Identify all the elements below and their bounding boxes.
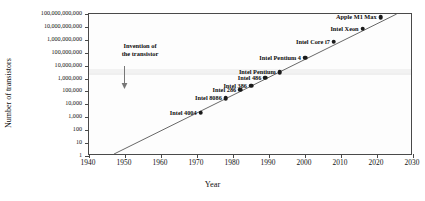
- x-tick-label: 2030: [392, 159, 425, 166]
- y-tick: [85, 104, 89, 105]
- y-tick-label: 1,000,000,000: [47, 36, 82, 42]
- y-tick: [85, 143, 89, 144]
- y-tick-label: 1,000,000: [58, 75, 82, 81]
- data-point-marker: [332, 39, 337, 44]
- y-tick: [85, 130, 89, 131]
- chart-figure: Number of transistors Year Intel 4004Int…: [0, 0, 425, 201]
- plot-area: Intel 4004Intel 8086Intel 286Intel 386In…: [88, 13, 412, 155]
- y-tick: [85, 27, 89, 28]
- x-tick-label: 1990: [248, 159, 288, 166]
- y-tick: [85, 14, 89, 15]
- annotation-arrow-down-icon: [120, 66, 129, 90]
- data-point-marker: [263, 75, 268, 80]
- y-tick-label: 10,000,000,000: [44, 23, 82, 29]
- x-tick-label: 1940: [68, 159, 108, 166]
- y-tick: [85, 91, 89, 92]
- y-tick-label: 100: [73, 126, 82, 132]
- transistor-invention-annotation: Invention of the transistor: [109, 42, 171, 58]
- x-tick-label: 1960: [140, 159, 180, 166]
- x-tick-label: 1980: [212, 159, 252, 166]
- y-tick-label: 100,000,000: [52, 49, 82, 55]
- data-point-marker: [198, 110, 203, 115]
- y-tick-label: 10,000,000: [55, 62, 82, 68]
- annotation-line-1: Invention of: [123, 42, 156, 49]
- data-point-marker: [249, 83, 254, 88]
- data-point-label: Apple M1 Max: [336, 14, 377, 20]
- y-tick-label: 100,000: [62, 87, 82, 93]
- data-point-marker: [224, 96, 229, 101]
- y-tick-label: 100,000,000,000: [41, 10, 82, 16]
- x-tick-label: 1970: [176, 159, 216, 166]
- y-tick: [85, 53, 89, 54]
- x-tick-label: 2020: [356, 159, 396, 166]
- data-point-label: Intel Pentium 4: [259, 54, 301, 60]
- data-point-label: Intel Xeon: [330, 26, 358, 32]
- y-tick: [85, 117, 89, 118]
- annotation-line-2: the transistor: [122, 50, 159, 57]
- data-point-marker: [303, 55, 308, 60]
- y-tick-label: 10,000: [65, 100, 82, 106]
- data-point-label: Intel Pentium: [239, 69, 276, 75]
- data-point-label: Intel 4004: [170, 109, 197, 115]
- y-tick: [85, 79, 89, 80]
- data-point-label: Intel 8086: [195, 95, 222, 101]
- data-point-marker: [278, 70, 283, 75]
- y-tick: [85, 66, 89, 67]
- y-tick-label: 10: [76, 139, 82, 145]
- data-point-label: Intel 386: [223, 83, 247, 89]
- y-tick: [85, 40, 89, 41]
- x-axis-title: Year: [0, 180, 425, 189]
- x-tick-label: 1950: [104, 159, 144, 166]
- data-point-label: Intel Core i7: [296, 38, 330, 44]
- y-tick-label: 1,000: [68, 113, 82, 119]
- x-tick-label: 2000: [284, 159, 324, 166]
- y-axis-title: Number of transistors: [4, 116, 13, 128]
- x-tick-label: 2010: [320, 159, 360, 166]
- data-point-marker: [360, 26, 365, 31]
- data-point-marker: [378, 15, 383, 20]
